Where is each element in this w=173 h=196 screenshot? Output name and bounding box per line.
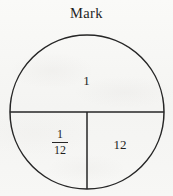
region-label-bottom-right-quarter: 12: [90, 138, 150, 151]
region-label-bottom-left-quarter: 1 12: [36, 128, 84, 157]
fraction-one-twelfth: 1 12: [52, 128, 68, 157]
circle-diagram: [0, 0, 173, 196]
figure-title: Mark: [0, 6, 173, 22]
fraction-denominator: 12: [52, 143, 68, 157]
figure-container: Mark 1 1 12 12: [0, 0, 173, 196]
region-label-top-half: 1: [0, 74, 173, 87]
fraction-numerator: 1: [52, 128, 68, 142]
